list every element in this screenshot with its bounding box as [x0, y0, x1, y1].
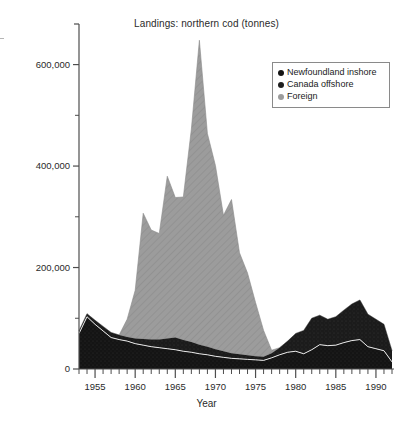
x-axis-tick-label: 1985: [316, 382, 356, 392]
x-axis-title: Year: [0, 398, 413, 409]
legend-label: Canada offshore: [287, 79, 353, 90]
legend-item-canada-offshore: Canada offshore: [278, 79, 385, 90]
legend-marker-icon: [278, 70, 284, 76]
y-axis-tick-label: 600,000: [0, 60, 70, 70]
legend-item-newfoundland-inshore: Newfoundland inshore: [278, 67, 385, 78]
legend-item-foreign: Foreign: [278, 91, 385, 102]
legend-marker-icon: [278, 82, 284, 88]
y-axis-tick-label: 0: [0, 364, 70, 374]
y-axis-tick-label: 200,000: [0, 263, 70, 273]
legend-label: Foreign: [287, 91, 318, 102]
x-axis-tick-label: 1955: [75, 382, 115, 392]
x-axis-tick-label: 1990: [356, 382, 396, 392]
chart-legend: Newfoundland inshore Canada offshore For…: [272, 62, 390, 108]
chart-figure: Landings: northern cod (tonnes) Newfo: [0, 0, 413, 433]
x-axis-tick-label: 1960: [115, 382, 155, 392]
x-axis-tick-label: 1965: [155, 382, 195, 392]
legend-label: Newfoundland inshore: [287, 67, 377, 78]
x-axis-tick-label: 1975: [236, 382, 276, 392]
legend-marker-icon: [278, 94, 284, 100]
x-axis-tick-label: 1970: [195, 382, 235, 392]
y-axis-tick-label: 400,000: [0, 161, 70, 171]
x-axis-tick-label: 1980: [276, 382, 316, 392]
